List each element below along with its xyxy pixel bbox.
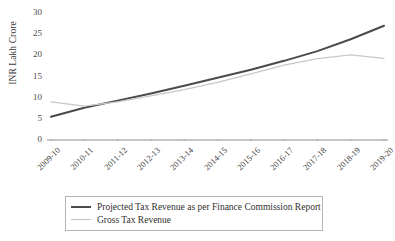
x-tick-label: 2019-20: [365, 145, 395, 175]
y-tick-label: 30: [20, 8, 42, 17]
plot-svg: [47, 10, 388, 141]
chart-figure: INR Lakh Crore 051015202530 2009-102010-…: [0, 0, 395, 241]
legend-line-swatch-gross: [71, 219, 91, 220]
x-tick-label: 2016-17: [265, 145, 295, 175]
y-axis-title: INR Lakh Crore: [8, 3, 18, 103]
legend-label-projected: Projected Tax Revenue as per Finance Com…: [97, 201, 321, 213]
y-tick-label: 0: [20, 135, 42, 144]
legend-item-projected: Projected Tax Revenue as per Finance Com…: [71, 200, 317, 213]
series-line-gross: [51, 55, 384, 106]
x-tick-label: 2011-12: [99, 145, 129, 175]
y-tick-label: 5: [20, 114, 42, 123]
chart-legend: Projected Tax Revenue as per Finance Com…: [65, 196, 323, 231]
x-axis-tick-labels: 2009-102010-112011-122012-132013-142014-…: [47, 141, 388, 187]
x-tick-label: 2012-13: [132, 145, 162, 175]
y-tick-label: 20: [20, 50, 42, 59]
x-tick-label: 2014-15: [199, 145, 229, 175]
y-axis-tick-labels: 051015202530: [18, 0, 42, 241]
x-tick-label: 2015-16: [232, 145, 262, 175]
legend-item-gross: Gross Tax Revenue: [71, 213, 317, 226]
legend-line-swatch-projected: [71, 206, 91, 208]
legend-label-gross: Gross Tax Revenue: [97, 214, 171, 226]
y-tick-label: 15: [20, 72, 42, 81]
x-tick-label: 2013-14: [166, 145, 196, 175]
x-tick-label: 2018-19: [332, 145, 362, 175]
x-tick-label: 2010-11: [66, 145, 96, 175]
plot-area: [47, 10, 388, 141]
y-tick-label: 25: [20, 29, 42, 38]
y-tick-label: 10: [20, 93, 42, 102]
series-line-projected: [51, 26, 384, 117]
x-tick-label: 2017-18: [299, 145, 329, 175]
